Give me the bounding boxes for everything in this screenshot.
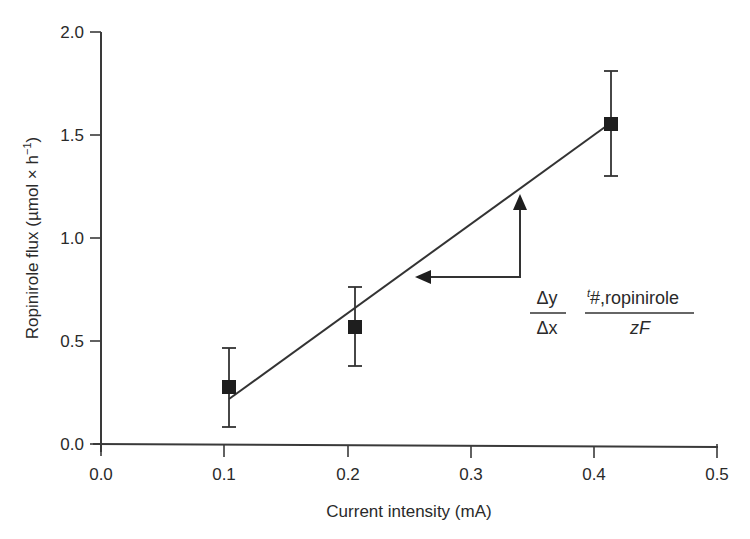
left-arrow-icon (415, 270, 431, 284)
data-point-marker (348, 320, 362, 334)
eq-numerator-text: #,ropinirole (590, 288, 679, 308)
eq-delta-x: Δx (536, 318, 557, 338)
x-axis-label: Current intensity (mA) (326, 502, 491, 521)
error-bars (222, 71, 618, 427)
y-tick-label: 0.0 (60, 435, 84, 454)
eq-delta-y: Δy (536, 288, 557, 308)
data-point-marker (604, 117, 618, 131)
x-tick-label: 0.5 (705, 465, 729, 484)
x-tick-label: 0.0 (89, 465, 113, 484)
slope-equation: Δy Δx t#,ropinirole zF (530, 287, 694, 338)
x-tick-label: 0.3 (459, 465, 483, 484)
fit-line (229, 127, 605, 399)
y-tick-label: 2.0 (60, 23, 84, 42)
y-axis-label-sup: −1 (21, 143, 33, 156)
y-axis-label-close: ) (23, 137, 42, 143)
axes (93, 32, 718, 458)
eq-denominator: zF (629, 318, 651, 338)
x-ticks: 0.0 0.1 0.2 0.3 0.4 0.5 (89, 444, 729, 484)
data-point-marker (222, 380, 236, 394)
y-axis-label-main: Ropinirole flux (µmol × h (23, 155, 42, 339)
y-ticks: 2.0 1.5 1.0 0.5 0.0 (60, 23, 101, 454)
x-tick-label: 0.2 (336, 465, 360, 484)
eq-numerator: t#,ropinirole (587, 287, 679, 308)
y-tick-label: 1.0 (60, 229, 84, 248)
x-tick-label: 0.1 (212, 465, 236, 484)
x-axis-line (93, 444, 718, 447)
slope-arrows (415, 194, 527, 284)
y-tick-label: 1.5 (60, 126, 84, 145)
chart: 2.0 1.5 1.0 0.5 0.0 0.0 0.1 0.2 0.3 0.4 … (0, 0, 750, 539)
y-axis-label: Ropinirole flux (µmol × h−1) (21, 137, 42, 339)
x-tick-label: 0.4 (582, 465, 606, 484)
y-tick-label: 0.5 (60, 332, 84, 351)
up-arrow-icon (513, 194, 527, 210)
data-markers (222, 117, 618, 394)
